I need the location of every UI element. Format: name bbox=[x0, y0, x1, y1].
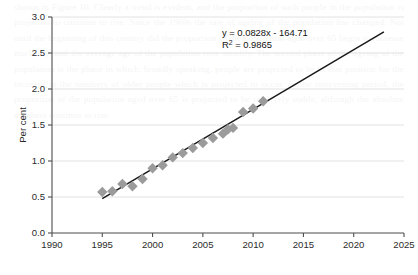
x-tick-label: 2025 bbox=[393, 239, 414, 250]
data-point-marker bbox=[137, 174, 147, 184]
data-point-marker bbox=[198, 138, 208, 148]
figure-root: shown in Figure 10. Clearly a trend is e… bbox=[0, 0, 418, 275]
y-tick-label: 1.5 bbox=[32, 119, 45, 130]
data-point-marker bbox=[117, 179, 127, 189]
y-axis-title: Per cent bbox=[17, 107, 28, 143]
scatter-chart: 19901995200020052010201520202025 0.00.51… bbox=[0, 0, 418, 275]
x-tick-label: 1990 bbox=[41, 239, 62, 250]
x-tick-label: 2005 bbox=[192, 239, 213, 250]
y-tick-label: 1.0 bbox=[32, 155, 45, 166]
data-point-marker bbox=[208, 133, 218, 143]
trendline-equation-label: y = 0.0828x - 164.71 bbox=[222, 27, 308, 38]
y-axis-tick-labels: 0.00.51.01.52.02.53.0 bbox=[32, 11, 45, 238]
chart-svg: 19901995200020052010201520202025 0.00.51… bbox=[0, 0, 418, 275]
data-point-marker bbox=[97, 187, 107, 197]
y-tick-label: 2.0 bbox=[32, 83, 45, 94]
y-tick-label: 0.0 bbox=[32, 227, 45, 238]
y-tick-label: 3.0 bbox=[32, 11, 45, 22]
data-point-marker bbox=[238, 107, 248, 117]
x-tick-label: 2020 bbox=[343, 239, 364, 250]
data-point-marker bbox=[188, 143, 198, 153]
r-squared-label: R2 = 0.9865 bbox=[222, 39, 272, 50]
data-point-marker bbox=[157, 160, 167, 170]
x-axis-ticks bbox=[52, 233, 404, 237]
y-tick-label: 0.5 bbox=[32, 191, 45, 202]
x-tick-label: 2010 bbox=[242, 239, 263, 250]
x-tick-label: 2000 bbox=[142, 239, 163, 250]
x-tick-label: 1995 bbox=[92, 239, 113, 250]
x-tick-label: 2015 bbox=[293, 239, 314, 250]
x-axis-tick-labels: 19901995200020052010201520202025 bbox=[41, 239, 414, 250]
y-tick-label: 2.5 bbox=[32, 47, 45, 58]
data-points bbox=[97, 96, 268, 197]
y-axis-ticks bbox=[48, 17, 52, 233]
